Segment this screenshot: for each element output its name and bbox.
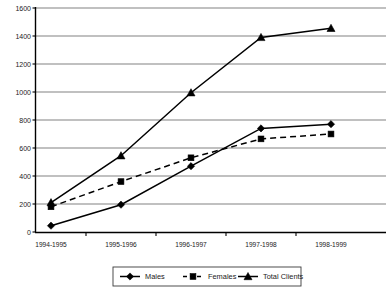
line-chart: 02004006008001000120014001600 1994-19951… xyxy=(0,0,392,290)
legend-item-total-clients[interactable]: Total Clients xyxy=(238,272,304,281)
y-axis-tick-label: 1000 xyxy=(15,89,31,96)
chart-canvas: 02004006008001000120014001600 1994-19951… xyxy=(0,0,392,290)
legend-label: Total Clients xyxy=(263,272,304,281)
y-axis-tick-label: 1200 xyxy=(15,61,31,68)
y-axis-tick-label: 1600 xyxy=(15,5,31,12)
y-axis-tick-label: 800 xyxy=(19,117,31,124)
y-axis-tick-label: 600 xyxy=(19,145,31,152)
data-point-females xyxy=(118,179,124,185)
y-axis-tick-label: 400 xyxy=(19,173,31,180)
y-axis-tick-label: 200 xyxy=(19,201,31,208)
data-point-females xyxy=(258,136,264,142)
x-axis-tick-label: 1995-1996 xyxy=(105,241,137,248)
x-axis-tick-label: 1994-1995 xyxy=(35,241,67,248)
data-point-females xyxy=(328,131,334,137)
x-axis-tick-label: 1996-1997 xyxy=(175,241,207,248)
legend-marker-square xyxy=(190,274,196,280)
chart-legend[interactable]: MalesFemalesTotal Clients xyxy=(113,267,304,286)
legend-label: Females xyxy=(208,272,237,281)
data-point-females xyxy=(188,155,194,161)
legend-label: Males xyxy=(145,272,165,281)
legend-item-females[interactable]: Females xyxy=(183,272,237,281)
y-axis-tick-label: 0 xyxy=(27,229,31,236)
y-axis-tick-label: 1400 xyxy=(15,33,31,40)
x-axis-tick-label: 1997-1998 xyxy=(245,241,277,248)
x-axis-tick-label: 1998-1999 xyxy=(315,241,347,248)
